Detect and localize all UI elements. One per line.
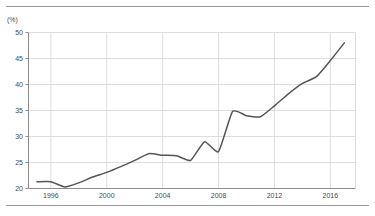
x-tick-label-2016: 2016 [323,192,339,199]
x-tick-label-2012: 2012 [267,192,283,199]
chart-figure: (%) 20253035404550 199620002004200820122… [0,0,375,216]
y-tick-label-45: 45 [15,55,23,62]
x-tick-label-2004: 2004 [155,192,171,199]
y-tick-label-35: 35 [15,107,23,114]
x-tick-label-2008: 2008 [211,192,227,199]
y-tick-label-50: 50 [15,29,23,36]
data-series-line [37,43,344,187]
y-tick-label-25: 25 [15,159,23,166]
x-axis-tick-labels: 199620002004200820122016 [43,192,338,199]
y-tick-label-40: 40 [15,81,23,88]
y-axis-tick-labels: 20253035404550 [15,29,23,192]
y-tick-label-30: 30 [15,133,23,140]
y-tick-label-20: 20 [15,185,23,192]
series-line-value [37,43,344,187]
x-tick-label-1996: 1996 [43,192,59,199]
x-tick-label-2000: 2000 [99,192,115,199]
line-chart-plot: 20253035404550 199620002004200820122016 [0,0,375,216]
horizontal-gridlines [29,59,356,163]
